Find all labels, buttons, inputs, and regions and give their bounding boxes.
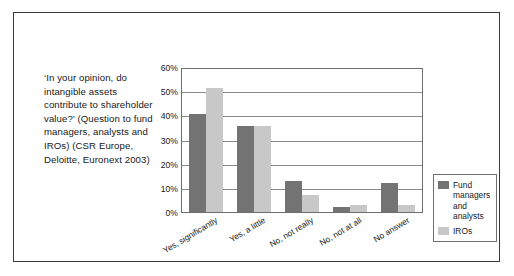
bar [398, 205, 415, 212]
y-tick-label: 0% [151, 208, 178, 218]
x-tick-label: No, not at all [318, 215, 363, 248]
x-tick-label: Yes, a little [228, 215, 268, 244]
bar [189, 114, 206, 212]
y-tick-label: 60% [151, 63, 178, 73]
legend-swatch-icon [438, 181, 449, 189]
x-axis-labels: Yes, significantlyYes, a littleNo, not r… [182, 215, 422, 259]
bar [237, 126, 254, 212]
y-tick-label: 30% [151, 136, 178, 146]
bar [381, 183, 398, 212]
x-tick-label: No, not really [268, 215, 315, 249]
bar-group [182, 69, 230, 212]
bar [350, 205, 367, 212]
y-tick-label: 10% [151, 184, 178, 194]
bar [206, 88, 223, 212]
y-tick-label: 40% [151, 111, 178, 121]
bar-group [230, 69, 278, 212]
x-tick-label: Yes, significantly [161, 215, 219, 255]
bar [333, 207, 350, 212]
legend-swatch-icon [438, 227, 449, 235]
bar-group [326, 69, 374, 212]
x-tick-label: No answer [372, 215, 411, 244]
bar-chart: 0%10%20%30%40%50%60% Yes, significantlyY… [152, 53, 497, 258]
bar-group [278, 69, 326, 212]
bar [254, 126, 271, 212]
y-axis-labels: 0%10%20%30%40%50%60% [152, 68, 178, 213]
y-tick-label: 20% [151, 160, 178, 170]
figure-caption: ‘In your opinion, do intangible assets c… [44, 71, 156, 166]
chart-legend: Fund managers and analystsIROs [433, 174, 497, 242]
bar-groups [182, 69, 422, 212]
legend-item: Fund managers and analysts [438, 180, 492, 222]
bar-group [374, 69, 422, 212]
bar [285, 181, 302, 212]
figure-frame: ‘In your opinion, do intangible assets c… [13, 12, 500, 262]
y-tick-label: 50% [151, 87, 178, 97]
legend-label: Fund managers and analysts [453, 180, 492, 222]
legend-item: IROs [438, 226, 492, 236]
bar [302, 195, 319, 212]
legend-label: IROs [453, 226, 472, 236]
